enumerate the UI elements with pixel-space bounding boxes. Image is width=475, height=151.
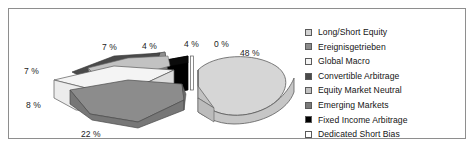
pie-label-7-top: 7 % — [102, 42, 117, 52]
legend-label: Long/Short Equity — [318, 28, 387, 37]
legend-item-fixed-income-arbitrage[interactable]: Fixed Income Arbitrage — [305, 113, 471, 128]
chart-legend: Long/Short Equity Ereignisgetrieben Glob… — [305, 25, 471, 142]
legend-swatch-icon — [305, 131, 312, 138]
legend-label: Emerging Markets — [318, 101, 389, 110]
slice-long-short-equity — [198, 57, 294, 124]
legend-item-dedicated-short-bias[interactable]: Dedicated Short Bias — [305, 127, 471, 142]
legend-label: Convertible Arbitrage — [318, 72, 399, 81]
legend-swatch-icon — [305, 116, 312, 123]
legend-label: Global Macro — [318, 57, 370, 66]
pie-label-4-second: 4 % — [184, 39, 199, 49]
legend-swatch-icon — [305, 58, 312, 65]
chart-frame-border: 7 % 8 % 22 % 7 % 4 % 4 % 0 % 48 % Long/S… — [8, 8, 466, 139]
slice-ereignisgetrieben — [70, 80, 186, 128]
legend-label: Equity Market Neutral — [318, 86, 402, 95]
legend-item-long-short-equity[interactable]: Long/Short Equity — [305, 25, 471, 40]
legend-swatch-icon — [305, 43, 312, 50]
legend-item-ereignisgetrieben[interactable]: Ereignisgetrieben — [305, 40, 471, 55]
legend-swatch-icon — [305, 102, 312, 109]
pie-label-7-left: 7 % — [24, 66, 39, 76]
legend-label: Ereignisgetrieben — [318, 43, 386, 52]
pie-chart-figure: 7 % 8 % 22 % 7 % 4 % 4 % 0 % 48 % Long/S… — [0, 0, 475, 151]
pie-label-48: 48 % — [240, 48, 260, 58]
legend-item-emerging-markets[interactable]: Emerging Markets — [305, 98, 471, 113]
legend-swatch-icon — [305, 29, 312, 36]
legend-swatch-icon — [305, 87, 312, 94]
legend-item-convertible-arbitrage[interactable]: Convertible Arbitrage — [305, 69, 471, 84]
pie-3d-graphic — [18, 18, 298, 147]
pie-label-22: 22 % — [81, 129, 101, 139]
slice-dedicated-short-bias — [191, 56, 194, 90]
legend-label: Dedicated Short Bias — [318, 130, 400, 139]
pie-label-4-first: 4 % — [142, 41, 157, 51]
legend-item-equity-market-neutral[interactable]: Equity Market Neutral — [305, 83, 471, 98]
legend-swatch-icon — [305, 73, 312, 80]
legend-label: Fixed Income Arbitrage — [318, 116, 407, 125]
pie-label-8: 8 % — [26, 100, 41, 110]
legend-item-global-macro[interactable]: Global Macro — [305, 54, 471, 69]
pie-label-0: 0 % — [214, 39, 229, 49]
pie-chart-plot-area: 7 % 8 % 22 % 7 % 4 % 4 % 0 % 48 % — [18, 18, 298, 147]
